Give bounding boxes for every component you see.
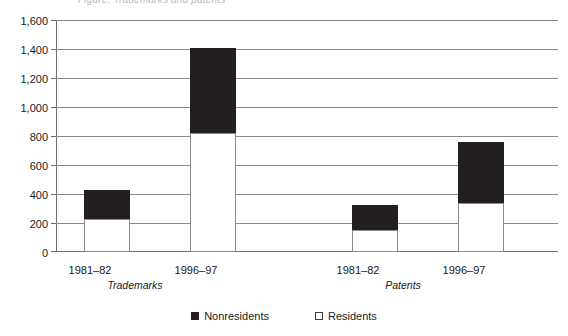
bar-segment-residents[interactable] xyxy=(352,230,398,253)
bar-segment-residents[interactable] xyxy=(190,133,236,252)
plot-area xyxy=(56,20,558,252)
stacked-bar-chart: Figure: Trademarks and patents 1,600 1,4… xyxy=(0,0,568,336)
x-tick-label-trademarks-1996-97: 1996–97 xyxy=(166,264,226,276)
bar-patents-1981-82[interactable] xyxy=(352,205,398,252)
y-tick-label: 0 xyxy=(2,248,48,259)
bar-trademarks-1996-97[interactable] xyxy=(190,48,236,252)
x-tick-label-trademarks-1981-82: 1981–82 xyxy=(60,264,120,276)
legend-item-nonresidents[interactable]: Nonresidents xyxy=(191,310,269,322)
bar-segment-nonresidents[interactable] xyxy=(352,205,398,230)
bar-trademarks-1981-82[interactable] xyxy=(84,190,130,252)
x-tick-label-patents-1981-82: 1981–82 xyxy=(328,264,388,276)
bar-segment-residents[interactable] xyxy=(84,219,130,252)
group-label-patents: Patents xyxy=(358,279,448,291)
legend-item-residents[interactable]: Residents xyxy=(315,310,377,322)
bar-segment-residents[interactable] xyxy=(458,203,504,252)
gridline-1600 xyxy=(56,20,558,21)
bar-segment-nonresidents[interactable] xyxy=(190,48,236,133)
legend-swatch-residents-icon xyxy=(315,312,323,320)
gridline-1200 xyxy=(56,78,558,79)
bar-patents-1996-97[interactable] xyxy=(458,142,504,252)
y-tick-label: 1,600 xyxy=(2,16,48,27)
y-tick-label: 200 xyxy=(2,219,48,230)
y-tick-label: 600 xyxy=(2,161,48,172)
gridline-800 xyxy=(56,136,558,137)
legend-label-nonresidents: Nonresidents xyxy=(204,310,269,322)
group-label-trademarks: Trademarks xyxy=(90,279,180,291)
y-tick-label: 800 xyxy=(2,132,48,143)
legend-label-residents: Residents xyxy=(328,310,377,322)
legend-swatch-nonresidents-icon xyxy=(191,312,199,320)
x-tick-label-patents-1996-97: 1996–97 xyxy=(434,264,494,276)
chart-legend: Nonresidents Residents xyxy=(0,310,568,322)
gridline-1000 xyxy=(56,107,558,108)
bar-segment-nonresidents[interactable] xyxy=(458,142,504,204)
y-tick-label: 1,000 xyxy=(2,103,48,114)
gridline-1400 xyxy=(56,49,558,50)
chart-title-cropped: Figure: Trademarks and patents xyxy=(78,0,498,5)
y-tick-label: 400 xyxy=(2,190,48,201)
bar-segment-nonresidents[interactable] xyxy=(84,190,130,219)
y-tick-label: 1,200 xyxy=(2,74,48,85)
y-tick-label: 1,400 xyxy=(2,45,48,56)
